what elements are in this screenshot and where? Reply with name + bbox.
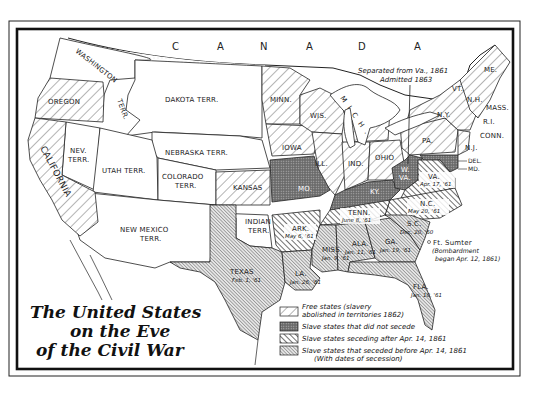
svg-text:INDIAN: INDIAN <box>245 218 271 226</box>
legend-item-after: Slave states seceding after Apr. 14, 186… <box>280 334 447 343</box>
svg-text:VA.: VA. <box>428 173 440 181</box>
svg-text:FLA.: FLA. <box>413 283 429 291</box>
svg-text:LA.: LA. <box>295 270 307 278</box>
svg-text:A: A <box>217 41 224 52</box>
svg-text:WIS.: WIS. <box>310 112 326 120</box>
svg-text:PA.: PA. <box>422 137 433 145</box>
svg-text:Admitted 1863: Admitted 1863 <box>379 76 432 84</box>
svg-text:Ft. Sumter: Ft. Sumter <box>433 239 472 247</box>
svg-text:UTAH TERR.: UTAH TERR. <box>102 167 146 175</box>
svg-text:MASS.: MASS. <box>486 104 509 112</box>
svg-text:N.H.: N.H. <box>467 96 483 104</box>
svg-text:VA.: VA. <box>399 174 411 182</box>
svg-text:ILL.: ILL. <box>315 160 328 168</box>
svg-text:MINN.: MINN. <box>270 96 292 104</box>
svg-text:NEW MEXICO: NEW MEXICO <box>120 226 169 234</box>
svg-text:Slave states seceding after Ap: Slave states seceding after Apr. 14, 186… <box>302 335 447 343</box>
svg-text:OHIO: OHIO <box>375 154 394 162</box>
svg-text:Jan. 19, '61: Jan. 19, '61 <box>379 247 411 254</box>
svg-text:May 20, '61: May 20, '61 <box>408 208 440 215</box>
svg-text:N.Y.: N.Y. <box>437 111 450 119</box>
svg-text:DEL.: DEL. <box>468 157 482 164</box>
svg-text:May 6, '61: May 6, '61 <box>285 233 314 240</box>
svg-text:began Apr. 12, 1861): began Apr. 12, 1861) <box>435 255 500 263</box>
svg-text:A: A <box>414 41 421 52</box>
svg-text:TERR.: TERR. <box>139 235 161 243</box>
svg-text:TERR.: TERR. <box>67 156 89 164</box>
civil-war-map: C A N A D A <box>0 0 550 403</box>
svg-text:ALA.: ALA. <box>352 240 369 248</box>
svg-text:Jan. 9, '61: Jan. 9, '61 <box>321 255 349 262</box>
svg-text:KY.: KY. <box>370 188 380 196</box>
svg-text:of the Civil War: of the Civil War <box>36 340 185 360</box>
svg-text:R.I.: R.I. <box>483 118 495 126</box>
svg-text:C: C <box>172 41 179 52</box>
svg-text:S.C.: S.C. <box>407 220 422 228</box>
svg-text:abolished in territories 1862): abolished in territories 1862) <box>302 311 404 319</box>
svg-text:OREGON: OREGON <box>48 98 80 106</box>
svg-text:GA.: GA. <box>385 238 398 246</box>
svg-text:Feb. 1, '61: Feb. 1, '61 <box>232 277 261 283</box>
svg-text:(With dates of secession): (With dates of secession) <box>314 355 403 363</box>
svg-text:IOWA: IOWA <box>282 144 302 152</box>
label-va: VA. Apr. 17, '61 <box>419 172 455 188</box>
svg-text:Separated from Va., 1861: Separated from Va., 1861 <box>358 67 448 75</box>
svg-text:KANSAS: KANSAS <box>233 184 263 192</box>
svg-text:VT.: VT. <box>452 85 463 93</box>
svg-text:CONN.: CONN. <box>480 132 504 140</box>
label-nc: N.C. May 20, '61 <box>407 199 449 215</box>
svg-text:COLORADO: COLORADO <box>162 173 204 181</box>
svg-text:Slave states that seceded befo: Slave states that seceded before Apr. 14… <box>302 347 467 355</box>
svg-text:IND.: IND. <box>348 160 364 168</box>
svg-text:NEV.: NEV. <box>70 147 87 155</box>
svg-text:Apr. 17, '61: Apr. 17, '61 <box>419 181 452 188</box>
svg-text:A: A <box>306 41 313 52</box>
svg-text:N: N <box>260 41 267 52</box>
svg-text:DAKOTA TERR.: DAKOTA TERR. <box>165 96 218 104</box>
svg-text:Free states (slavery: Free states (slavery <box>302 303 372 311</box>
svg-text:D: D <box>358 41 366 52</box>
svg-text:MISS.: MISS. <box>322 246 342 254</box>
label-ark: ARK. May 6, '61 <box>284 224 316 240</box>
svg-text:MD.: MD. <box>468 165 480 172</box>
svg-text:Dec. 20, '60: Dec. 20, '60 <box>400 229 434 235</box>
svg-text:Jan. 26, '61: Jan. 26, '61 <box>289 279 321 286</box>
svg-text:(Bombardment: (Bombardment <box>432 247 479 254</box>
svg-text:TEXAS: TEXAS <box>229 268 254 276</box>
svg-text:ARK.: ARK. <box>292 225 309 233</box>
svg-text:N.J.: N.J. <box>465 144 478 152</box>
svg-text:June 8, '61: June 8, '61 <box>341 217 371 224</box>
svg-text:Jan. 10, '61: Jan. 10, '61 <box>410 292 442 299</box>
svg-text:NEBRASKA TERR.: NEBRASKA TERR. <box>165 149 228 157</box>
region-utah-terr <box>93 128 158 200</box>
svg-text:W.: W. <box>401 166 410 174</box>
svg-text:N.C.: N.C. <box>420 200 435 208</box>
svg-text:MO.: MO. <box>298 185 312 193</box>
svg-text:TERR.: TERR. <box>247 227 269 235</box>
label-tenn: TENN. June 8, '61 <box>340 208 380 224</box>
svg-text:TERR.: TERR. <box>174 182 196 190</box>
svg-text:ME.: ME. <box>484 66 497 74</box>
svg-text:TENN.: TENN. <box>347 209 370 217</box>
svg-text:Slave states that did not sece: Slave states that did not secede <box>302 323 415 331</box>
svg-text:on the Eve: on the Eve <box>70 321 170 341</box>
svg-text:The United States: The United States <box>30 302 202 322</box>
